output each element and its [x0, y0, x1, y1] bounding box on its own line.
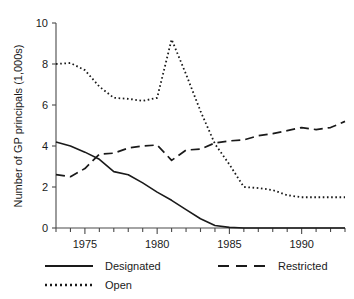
y-axis-ticks: 0246810 — [36, 17, 56, 234]
series-group — [56, 39, 345, 228]
legend-label-restricted: Restricted — [278, 260, 328, 272]
y-tick-label: 0 — [42, 222, 48, 234]
y-tick-label: 4 — [42, 140, 48, 152]
x-tick-label: 1985 — [217, 238, 241, 250]
x-tick-label: 1975 — [73, 238, 97, 250]
x-tick-label: 1980 — [145, 238, 169, 250]
chart-legend: DesignatedRestrictedOpen — [45, 260, 328, 291]
y-axis-title: Number of GP principals (1,000s) — [12, 44, 24, 207]
y-tick-label: 6 — [42, 99, 48, 111]
y-tick-label: 10 — [36, 17, 48, 29]
legend-label-open: Open — [105, 279, 132, 291]
x-axis-ticks: 1975198019851990 — [56, 228, 345, 250]
series-line-open — [56, 39, 345, 197]
series-line-designated — [56, 142, 345, 228]
y-tick-label: 2 — [42, 181, 48, 193]
chart-figure: Number of GP principals (1,000s) 0246810… — [0, 0, 354, 299]
series-line-restricted — [56, 121, 345, 176]
y-tick-label: 8 — [42, 58, 48, 70]
x-tick-label: 1990 — [289, 238, 313, 250]
legend-label-designated: Designated — [105, 260, 161, 272]
line-chart: Number of GP principals (1,000s) 0246810… — [0, 0, 354, 299]
